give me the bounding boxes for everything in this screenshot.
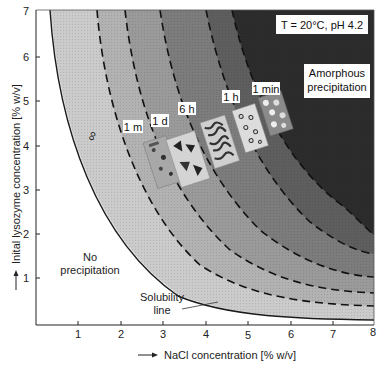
no-precipitation-line1: No xyxy=(83,251,97,263)
x-tick-label: 2 xyxy=(118,328,124,340)
y-tick-label: 2 xyxy=(23,228,29,240)
time-label-1h: 1 h xyxy=(223,91,238,103)
region-bands xyxy=(36,10,374,325)
arrow-up-icon xyxy=(14,270,19,276)
solubility-label-line1: Solubility xyxy=(140,291,185,303)
amorphous-label-line2: precipitation xyxy=(307,81,366,93)
solubility-label-line2: line xyxy=(153,304,170,316)
phase-diagram-chart: 1 2 3 4 5 6 7 8 7 6 5 4 3 2 1 NaCl conce… xyxy=(0,0,384,365)
time-label-1m: 1 m xyxy=(124,121,142,133)
amorphous-label-line1: Amorphous xyxy=(309,67,366,79)
x-axis-title: NaCl concentration [% w/v] xyxy=(164,349,296,361)
x-tick-label: 3 xyxy=(160,328,166,340)
y-tick-label: 7 xyxy=(23,5,29,17)
y-tick-label: 4 xyxy=(23,140,29,152)
x-tick-label: 8 xyxy=(370,326,376,338)
y-axis-title: Inital lysozyme concentration [% w/v] xyxy=(10,84,22,264)
conditions-label: T = 20°C, pH 4.2 xyxy=(281,19,363,31)
x-tick-label: 7 xyxy=(330,328,336,340)
time-label-1min: 1 min xyxy=(253,83,280,95)
y-tick-label: 5 xyxy=(23,95,29,107)
x-tick-label: 4 xyxy=(203,328,209,340)
x-tick-label: 5 xyxy=(245,329,251,341)
time-label-1d: 1 d xyxy=(152,115,167,127)
y-tick-label: 6 xyxy=(23,51,29,63)
x-tick-label: 1 xyxy=(75,328,81,340)
time-label-6h: 6 h xyxy=(179,103,194,115)
y-tick-label: 1 xyxy=(23,272,29,284)
arrow-right-icon xyxy=(152,353,158,358)
y-tick-label: 3 xyxy=(23,184,29,196)
no-precipitation-line2: precipitation xyxy=(60,264,119,276)
y-axis-title-group: Inital lysozyme concentration [% w/v] xyxy=(10,84,22,290)
x-tick-label: 6 xyxy=(288,328,294,340)
x-axis-title-group: NaCl concentration [% w/v] xyxy=(138,349,296,361)
